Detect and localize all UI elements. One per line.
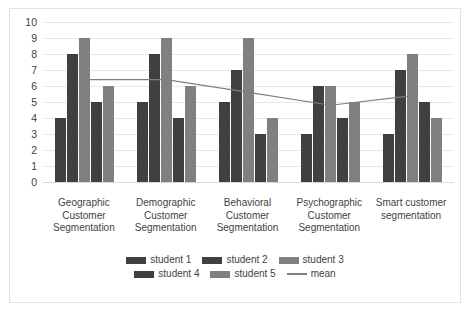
legend-row: student 4student 5mean: [134, 269, 335, 279]
legend-swatch-icon: [134, 271, 154, 278]
bar: [161, 38, 172, 182]
bar: [243, 38, 254, 182]
legend-swatch-icon: [287, 273, 307, 275]
plot-area: [43, 22, 454, 182]
bar: [79, 38, 90, 182]
bar: [55, 118, 66, 182]
legend-label: student 5: [234, 269, 275, 279]
bar: [301, 134, 312, 182]
y-tick-label: 3: [31, 129, 37, 140]
legend-label: student 1: [150, 255, 191, 265]
y-tick-label: 2: [31, 145, 37, 156]
y-tick-label: 1: [31, 161, 37, 172]
y-tick-label: 0: [31, 177, 37, 188]
bar: [431, 118, 442, 182]
bar: [383, 134, 394, 182]
bar-group: [207, 22, 289, 182]
bar-group: [43, 22, 125, 182]
y-tick-label: 5: [31, 97, 37, 108]
bar: [149, 54, 160, 182]
bar: [349, 102, 360, 182]
bar-groups: [43, 22, 454, 182]
legend-item[interactable]: student 2: [202, 255, 267, 265]
bar: [219, 102, 230, 182]
chart-legend: student 1student 2student 3student 4stud…: [10, 255, 460, 279]
bar: [67, 54, 78, 182]
bar: [91, 102, 102, 182]
legend-item[interactable]: student 4: [134, 269, 199, 279]
category-label: DemographicCustomerSegmentation: [125, 197, 207, 253]
bar: [313, 86, 324, 182]
legend-swatch-icon: [279, 257, 299, 264]
bar: [325, 86, 336, 182]
bar: [103, 86, 114, 182]
plot-wrapper: 109876543210: [10, 9, 462, 195]
legend-swatch-icon: [202, 257, 222, 264]
legend-swatch-icon: [210, 271, 230, 278]
bar-group: [290, 22, 372, 182]
y-tick-label: 7: [31, 65, 37, 76]
y-tick-label: 6: [31, 81, 37, 92]
legend-label: student 4: [158, 269, 199, 279]
bar: [231, 70, 242, 182]
bar: [337, 118, 348, 182]
bar: [419, 102, 430, 182]
bar: [407, 54, 418, 182]
legend-item[interactable]: student 3: [279, 255, 344, 265]
bar: [137, 102, 148, 182]
chart-container: 109876543210 GeographicCustomerSegmentat…: [9, 8, 461, 303]
y-tick-label: 8: [31, 49, 37, 60]
y-axis: 109876543210: [10, 22, 40, 182]
category-label: GeographicCustomerSegmentation: [43, 197, 125, 253]
category-axis-labels: GeographicCustomerSegmentationDemographi…: [43, 197, 452, 253]
bar: [173, 118, 184, 182]
category-label: PsychographicCustomerSegmentation: [288, 197, 370, 253]
bar-group: [125, 22, 207, 182]
bar: [255, 134, 266, 182]
category-label: BehavioralCustomerSegmentation: [207, 197, 289, 253]
legend-row: student 1student 2student 3: [126, 255, 343, 265]
legend-item[interactable]: student 5: [210, 269, 275, 279]
y-tick-label: 10: [25, 17, 37, 28]
legend-swatch-icon: [126, 257, 146, 264]
legend-label: mean: [311, 269, 336, 279]
bar-group: [372, 22, 454, 182]
bar: [395, 70, 406, 182]
gridline: [43, 182, 454, 183]
y-tick-label: 9: [31, 33, 37, 44]
bar: [185, 86, 196, 182]
legend-item[interactable]: mean: [287, 269, 336, 279]
legend-item[interactable]: student 1: [126, 255, 191, 265]
category-label: Smart customersegmentation: [370, 197, 452, 253]
y-tick-label: 4: [31, 113, 37, 124]
bar: [267, 118, 278, 182]
legend-label: student 3: [303, 255, 344, 265]
legend-label: student 2: [226, 255, 267, 265]
